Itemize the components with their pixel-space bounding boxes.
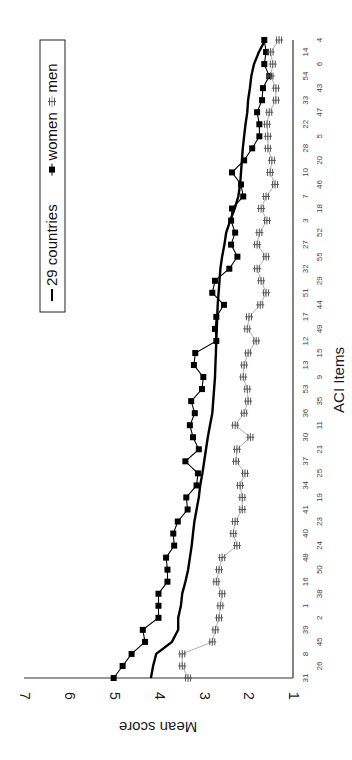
asterisk-marker	[244, 349, 252, 357]
category-tick-label: 26	[315, 661, 324, 670]
category-tick-label: 48	[301, 553, 310, 562]
category-tick-label: 18	[315, 204, 324, 213]
asterisk-marker	[212, 578, 220, 586]
category-tick-label: 47	[315, 107, 324, 116]
asterisk-marker	[253, 265, 261, 273]
square-marker	[155, 615, 161, 621]
asterisk-marker	[244, 397, 252, 405]
legend: 29 countrieswomenmen	[40, 40, 65, 312]
category-tick-label: 10	[301, 167, 310, 176]
value-tick-label: 2	[241, 692, 257, 700]
asterisk-marker	[240, 409, 248, 417]
square-marker	[155, 591, 161, 597]
square-marker	[171, 543, 177, 549]
category-tick-label: 1	[301, 603, 310, 608]
asterisk-marker	[215, 614, 223, 622]
square-marker	[155, 603, 161, 609]
asterisk-marker	[184, 674, 192, 682]
category-tick-label: 37	[301, 456, 310, 465]
asterisk-marker	[255, 229, 263, 237]
category-tick-label: 19	[315, 492, 324, 501]
asterisk-marker	[252, 337, 260, 345]
square-marker	[196, 446, 202, 452]
square-marker	[191, 362, 197, 368]
category-tick-label: 45	[315, 637, 324, 646]
asterisk-marker	[231, 518, 239, 526]
square-marker	[213, 338, 219, 344]
asterisk-marker	[216, 602, 224, 610]
category-tick-label: 51	[301, 288, 310, 297]
square-marker	[129, 651, 135, 657]
category-tick-label: 49	[315, 324, 324, 333]
category-tick-label: 43	[315, 83, 324, 92]
category-tick-label: 17	[301, 312, 310, 321]
value-tick-labels: 1234567	[17, 692, 302, 700]
asterisk-marker	[218, 590, 226, 598]
square-marker	[261, 37, 267, 43]
asterisk-marker	[218, 554, 226, 562]
category-tick-label: 52	[315, 228, 324, 237]
asterisk-marker	[268, 156, 276, 164]
square-marker	[187, 422, 193, 428]
square-marker	[140, 627, 146, 633]
square-marker	[254, 109, 260, 115]
asterisk-marker	[269, 60, 277, 68]
square-marker	[200, 374, 206, 380]
category-tick-label: 9	[315, 374, 324, 379]
square-marker	[259, 97, 265, 103]
category-tick-label: 21	[315, 444, 324, 453]
category-tick-label: 40	[301, 529, 310, 538]
series-line	[182, 40, 279, 678]
asterisk-marker	[178, 662, 186, 670]
square-marker	[163, 555, 169, 561]
asterisk-marker	[263, 217, 271, 225]
category-tick-label: 4	[315, 37, 324, 42]
asterisk-marker	[245, 313, 253, 321]
category-tick-label: 36	[301, 408, 310, 417]
asterisk-marker	[272, 84, 280, 92]
value-tick-label: 5	[107, 692, 123, 700]
category-tick-labels: 3126845392138165048244023411934253721301…	[301, 37, 324, 682]
square-marker	[142, 639, 148, 645]
square-marker	[228, 242, 234, 248]
square-marker	[256, 133, 262, 139]
square-marker	[120, 663, 126, 669]
asterisk-marker	[236, 481, 244, 489]
square-marker	[199, 386, 205, 392]
square-marker	[232, 230, 238, 236]
square-marker	[213, 314, 219, 320]
series-women	[111, 37, 273, 681]
asterisk-marker	[246, 433, 254, 441]
asterisk-marker	[265, 108, 273, 116]
asterisk-marker	[241, 469, 249, 477]
asterisk-marker	[264, 144, 272, 152]
legend-label: men	[43, 63, 60, 92]
category-tick-label: 23	[315, 517, 324, 526]
category-tick-label: 39	[301, 625, 310, 634]
square-marker	[229, 206, 235, 212]
square-marker	[260, 85, 266, 91]
square-marker	[164, 567, 170, 573]
square-marker	[194, 482, 200, 488]
category-tick-label: 15	[315, 348, 324, 357]
axes: 1234567 31268453921381650482440234119342…	[17, 37, 347, 736]
value-tick-label: 1	[286, 692, 302, 700]
category-tick-label: 2	[315, 615, 324, 620]
asterisk-marker	[215, 566, 223, 574]
asterisk-marker	[178, 650, 186, 658]
square-marker	[212, 278, 218, 284]
asterisk-marker	[233, 445, 241, 453]
asterisk-marker	[264, 132, 272, 140]
legend-label: women	[43, 112, 60, 161]
asterisk-marker	[253, 241, 261, 249]
category-tick-label: 6	[315, 61, 324, 66]
asterisk-marker	[233, 542, 241, 550]
category-tick-label: 13	[301, 360, 310, 369]
category-tick-label: 14	[301, 47, 310, 56]
asterisk-marker	[262, 253, 270, 261]
category-tick-label: 30	[301, 432, 310, 441]
asterisk-marker	[267, 48, 275, 56]
category-tick-label: 46	[315, 179, 324, 188]
square-marker	[170, 531, 176, 537]
asterisk-marker	[271, 180, 279, 188]
